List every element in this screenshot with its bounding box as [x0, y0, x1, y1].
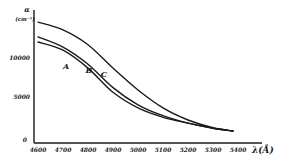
x-tick-label: 5300 [205, 146, 223, 153]
y-tick-label: 5000 [13, 93, 31, 100]
x-tick-labels: 460047004800490050005100520053005400 [30, 146, 248, 153]
y-tick-labels: 0500010000 [9, 54, 31, 143]
curve-labels: ABC [62, 61, 108, 79]
y-tick-label: 0 [23, 136, 28, 143]
x-tick-label: 4700 [55, 146, 73, 153]
absorption-chart: α (cm⁻¹) λ(Å) 0500010000 460047004800490… [0, 0, 283, 160]
curves [38, 22, 233, 131]
y-axis-title-unit: (cm⁻¹) [15, 16, 35, 22]
curve-label-b: B [85, 65, 93, 75]
curve-label-a: A [62, 61, 69, 71]
axes [34, 10, 262, 143]
x-tick-label: 4800 [80, 146, 98, 153]
y-tick-label: 10000 [9, 54, 31, 61]
curve-a [38, 42, 233, 131]
y-axis-title-symbol: α [24, 5, 30, 14]
x-tick-label: 4900 [105, 146, 123, 153]
y-axis-title: α (cm⁻¹) [15, 5, 35, 22]
x-tick-label: 5000 [130, 146, 148, 153]
x-axis-title: λ(Å) [251, 144, 274, 155]
curve-b [38, 37, 233, 131]
x-tick-label: 4600 [30, 146, 48, 153]
curve-label-c: C [101, 69, 108, 79]
curve-c [38, 22, 233, 131]
x-tick-label: 5200 [180, 146, 198, 153]
x-tick-label: 5100 [155, 146, 173, 153]
x-tick-label: 5400 [230, 146, 248, 153]
